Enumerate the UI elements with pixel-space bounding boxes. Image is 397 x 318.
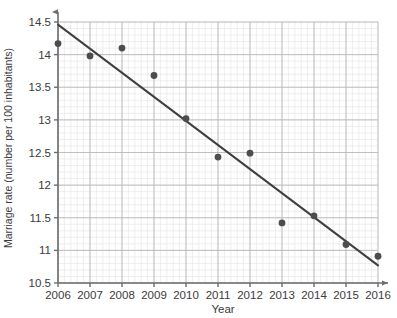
data-point bbox=[215, 154, 222, 161]
x-axis-tick-label: 2006 bbox=[45, 289, 71, 301]
y-axis-tick-label: 12 bbox=[38, 179, 51, 191]
data-point bbox=[343, 241, 350, 248]
chart-container: 10.51111.51212.51313.51414.5 20062007200… bbox=[0, 0, 397, 318]
y-axis-ticks: 10.51111.51212.51313.51414.5 bbox=[29, 16, 58, 289]
y-axis-tick-label: 10.5 bbox=[29, 277, 51, 289]
y-axis-tick-label: 14 bbox=[38, 49, 51, 61]
y-axis-tick-label: 13 bbox=[38, 114, 51, 126]
data-point bbox=[87, 53, 94, 60]
data-point bbox=[279, 220, 286, 227]
y-axis-title: Marriage rate (number per 100 inhabitant… bbox=[2, 48, 14, 248]
data-point bbox=[247, 150, 254, 157]
y-axis-tick-label: 13.5 bbox=[29, 81, 51, 93]
data-point bbox=[55, 40, 62, 47]
x-axis-tick-label: 2014 bbox=[301, 289, 327, 301]
data-point bbox=[375, 253, 382, 260]
x-axis-title: Year bbox=[211, 303, 234, 315]
data-point bbox=[119, 45, 126, 52]
scatter-chart: 10.51111.51212.51313.51414.5 20062007200… bbox=[0, 0, 397, 318]
x-axis-tick-label: 2012 bbox=[237, 289, 263, 301]
x-axis-tick-label: 2009 bbox=[141, 289, 167, 301]
data-point bbox=[151, 72, 158, 79]
y-axis-tick-label: 11 bbox=[39, 244, 51, 256]
x-axis-ticks: 2006200720082009201020112012201320142015… bbox=[45, 283, 391, 301]
y-axis-tick-label: 14.5 bbox=[29, 16, 51, 28]
x-axis-tick-label: 2013 bbox=[269, 289, 295, 301]
data-point bbox=[183, 115, 190, 122]
x-axis-tick-label: 2016 bbox=[365, 289, 391, 301]
x-axis-tick-label: 2007 bbox=[77, 289, 103, 301]
data-point bbox=[311, 212, 318, 219]
plot-axes bbox=[58, 12, 388, 283]
x-axis-tick-label: 2015 bbox=[333, 289, 359, 301]
y-axis-tick-label: 12.5 bbox=[29, 147, 51, 159]
x-axis-tick-label: 2010 bbox=[173, 289, 199, 301]
x-axis-tick-label: 2011 bbox=[206, 289, 231, 301]
y-axis-tick-label: 11.5 bbox=[29, 212, 51, 224]
x-axis-tick-label: 2008 bbox=[109, 289, 135, 301]
